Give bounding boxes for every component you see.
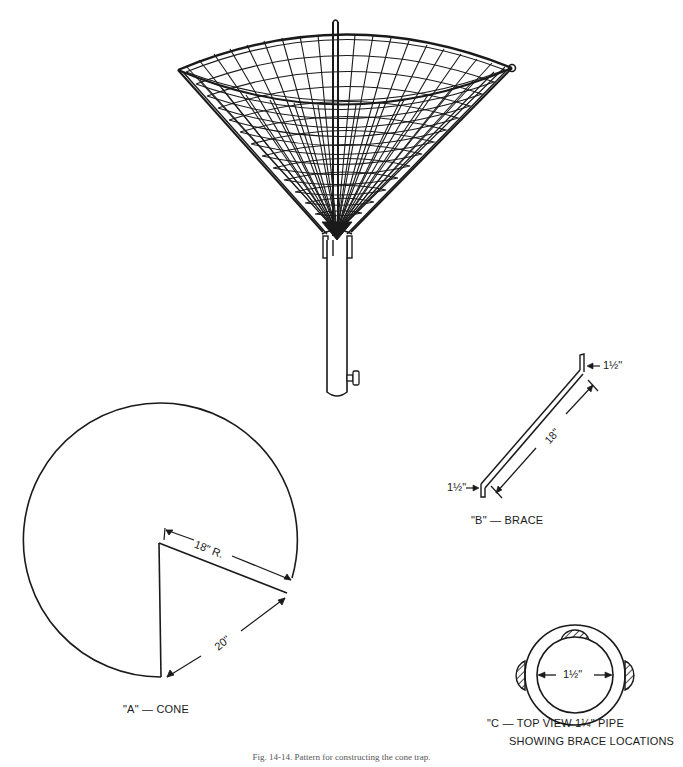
brace-top-tab-label: 1½" — [603, 359, 622, 371]
figure-caption: Fig. 14-14. Pattern for constructing the… — [0, 752, 683, 762]
pipe-rod — [322, 230, 359, 396]
cone-a-label: "A" — CONE — [123, 703, 189, 715]
brace-bottom-tab-label: 1½" — [447, 481, 466, 493]
pipe-c-label-line1: "C — TOP VIEW 1¼" PIPE — [487, 717, 624, 729]
diagram-canvas — [0, 0, 683, 767]
cone-trap-illustration — [178, 20, 516, 240]
cone-pattern-a — [23, 403, 297, 677]
brace-b — [466, 354, 600, 498]
pipe-c-label-line2: SHOWING BRACE LOCATIONS — [509, 735, 674, 747]
brace-b-label: "B" — BRACE — [471, 514, 543, 526]
pipe-inner-diameter-label: 1½" — [563, 668, 582, 680]
